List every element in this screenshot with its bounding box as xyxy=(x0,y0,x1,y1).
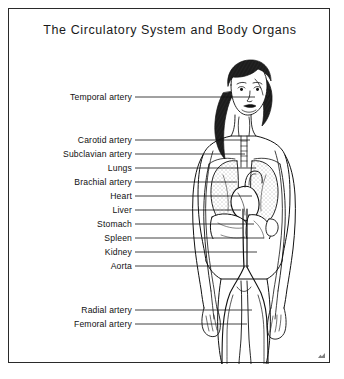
label-subclavian-artery: Subclavian artery xyxy=(9,149,132,159)
label-radial-artery: Radial artery xyxy=(9,305,132,315)
label-brachial-artery: Brachial artery xyxy=(9,177,132,187)
diagram-frame: The Circulatory System and Body Organs xyxy=(8,8,330,363)
label-heart: Heart xyxy=(9,191,132,201)
label-stomach: Stomach xyxy=(9,219,132,229)
label-liver: Liver xyxy=(9,205,132,215)
label-list: Temporal arteryCarotid arterySubclavian … xyxy=(9,9,331,364)
label-kidney: Kidney xyxy=(9,247,132,257)
label-spleen: Spleen xyxy=(9,233,132,243)
label-aorta: Aorta xyxy=(9,261,132,271)
label-femoral-artery: Femoral artery xyxy=(9,319,132,329)
label-lungs: Lungs xyxy=(9,163,132,173)
label-temporal-artery: Temporal artery xyxy=(9,92,132,102)
label-carotid-artery: Carotid artery xyxy=(9,135,132,145)
